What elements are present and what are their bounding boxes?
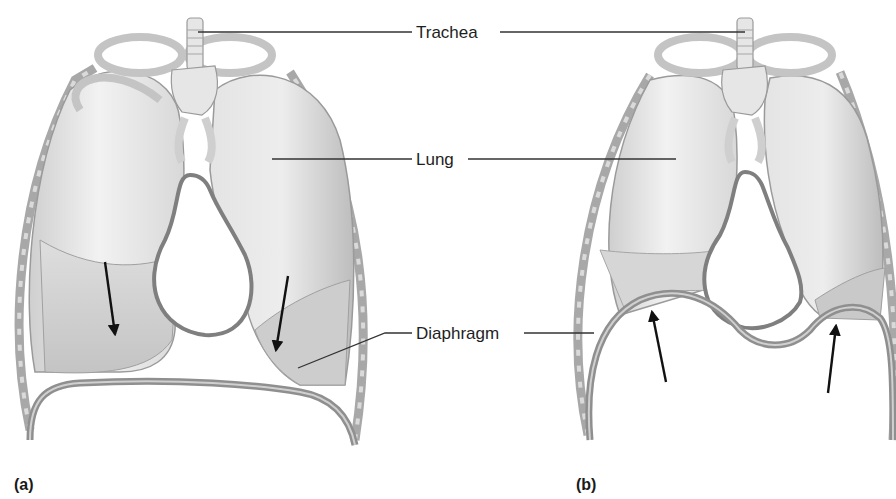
panel-a-figure [19,18,363,445]
panel-label-a: (a) [14,476,34,494]
label-trachea: Trachea [416,24,478,41]
panel-label-b: (b) [576,476,596,494]
label-lung: Lung [416,151,454,168]
arrow-up-right-b [828,326,836,393]
trachea-a [187,18,203,70]
respiration-diagram: Trachea Lung Diaphragm (a) (b) [0,0,896,499]
arrow-up-left-b [652,312,666,382]
trachea-b [737,18,753,70]
diaphragm-a [30,381,355,445]
panel-b-figure [578,18,895,440]
label-diaphragm: Diaphragm [416,325,499,342]
